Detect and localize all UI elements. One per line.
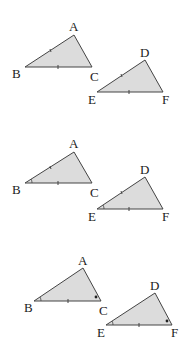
vertex-label-a: A <box>78 253 88 268</box>
triangle-def: D E F <box>88 45 169 107</box>
vertex-label-c: C <box>99 303 108 318</box>
congruent-triangles-figure: A B C D E F A B C D E <box>0 0 194 356</box>
triangle-abc: A B C <box>12 19 99 84</box>
vertex-label-b: B <box>24 300 33 315</box>
vertex-label-f: F <box>162 92 169 107</box>
vertex-label-e: E <box>88 92 96 107</box>
triangle-shape <box>97 177 163 209</box>
vertex-label-c: C <box>90 185 99 200</box>
vertex-label-c: C <box>90 69 99 84</box>
triangle-shape <box>25 152 92 183</box>
triangle-shape <box>34 268 101 301</box>
vertex-label-d: D <box>140 162 149 177</box>
vertex-label-f: F <box>162 209 169 224</box>
triangle-def: D E F <box>97 278 178 340</box>
pair-3: A B C D E F <box>24 253 178 340</box>
vertex-label-e: E <box>97 325 105 340</box>
angle-f-dot-mark <box>166 320 169 323</box>
triangle-shape <box>25 35 92 67</box>
vertex-label-d: D <box>150 278 159 293</box>
vertex-label-f: F <box>171 325 178 340</box>
triangle-abc: A B C <box>24 253 108 318</box>
triangle-shape <box>106 293 172 325</box>
vertex-label-a: A <box>69 19 79 34</box>
vertex-label-a: A <box>69 136 79 151</box>
pair-2: A B C D E F <box>12 136 169 224</box>
triangle-def: D E F <box>88 162 169 224</box>
triangle-shape <box>97 60 163 92</box>
vertex-label-b: B <box>12 182 21 197</box>
vertex-label-e: E <box>88 209 96 224</box>
angle-c-dot-mark <box>95 296 98 299</box>
vertex-label-b: B <box>12 66 21 81</box>
vertex-label-d: D <box>140 45 149 60</box>
pair-1: A B C D E F <box>12 19 169 107</box>
triangle-abc: A B C <box>12 136 99 200</box>
